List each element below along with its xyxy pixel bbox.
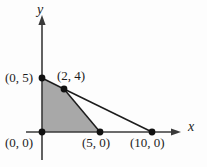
y-axis-label: y (37, 3, 43, 17)
point-0-0 (39, 129, 46, 136)
point-2-4 (61, 86, 68, 93)
shaded-region (42, 78, 100, 132)
label-point-2-4: (2, 4) (57, 69, 85, 82)
label-point-5-0: (5, 0) (82, 136, 110, 149)
label-point-10-0: (10, 0) (130, 136, 165, 149)
label-point-0-5: (0, 5) (5, 71, 33, 84)
coordinate-figure: y x (0, 5) (2, 4) (0, 0) (5, 0) (10, 0) (0, 0, 207, 167)
x-axis-arrowhead (171, 128, 181, 135)
point-0-5 (39, 75, 46, 82)
x-axis-label: x (188, 120, 194, 134)
label-point-0-0: (0, 0) (5, 136, 33, 149)
